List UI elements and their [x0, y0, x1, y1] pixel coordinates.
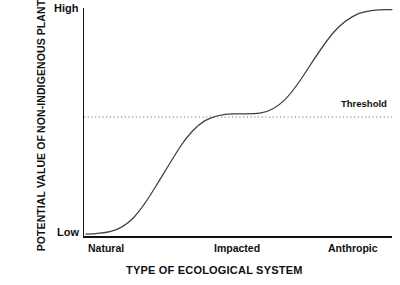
y-axis-title: POTENTIAL VALUE OF NON-INDIGENOUS PLANTS: [24, 22, 58, 222]
x-axis-title: TYPE OF ECOLOGICAL SYSTEM: [126, 265, 303, 276]
x-axis-tick-natural: Natural: [88, 243, 124, 254]
chart-figure: High Low POTENTIAL VALUE OF NON-INDIGENO…: [0, 0, 400, 285]
y-axis-tick-high: High: [54, 3, 78, 14]
y-axis-title-line-1: POTENTIAL VALUE OF: [35, 135, 47, 251]
x-axis-tick-anthropic: Anthropic: [328, 243, 378, 254]
y-axis-title-line-2: NON-INDIGENOUS PLANTS: [35, 0, 47, 133]
threshold-label: Threshold: [341, 99, 387, 109]
data-curve-line: [86, 10, 392, 235]
x-axis-tick-impacted: Impacted: [214, 243, 260, 254]
y-axis-tick-low: Low: [57, 227, 79, 238]
